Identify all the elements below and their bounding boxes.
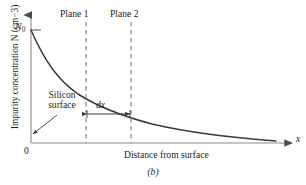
x-axis-label: Distance from surface [124, 150, 209, 160]
plane-2-label: Plane 2 [110, 9, 139, 19]
plane-1-label: Plane 1 [60, 9, 89, 19]
n0-symbol: N [15, 21, 22, 32]
dx-label: dx [96, 100, 105, 110]
n0-axis-label: N0 [15, 22, 25, 33]
origin-label: 0 [24, 146, 29, 156]
figure-panel-b: Impurity concentration N (cm−3) N0 Plane… [0, 0, 306, 185]
concentration-curve [31, 30, 276, 141]
n0-subscript: 0 [22, 25, 26, 34]
silicon-surface-callout-arrow [33, 115, 57, 134]
panel-caption: (b) [0, 167, 306, 177]
silicon-surface-label: Silicon surface [37, 90, 87, 110]
x-variable-label: x [296, 134, 300, 144]
